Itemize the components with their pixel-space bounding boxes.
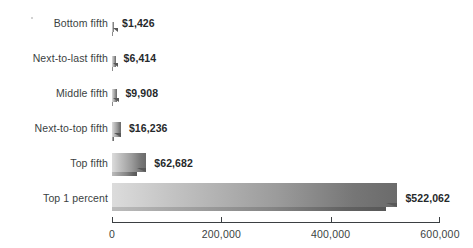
bar-right-bevel [137,168,146,176]
x-axis: 0200,000400,000600,000 [0,222,473,248]
chart-row: Top fifth$62,682 [0,146,473,181]
chart-row: Middle fifth$9,908 [0,76,473,111]
axis-tick [331,217,332,223]
chart-rows: Bottom fifth$1,426Next-to-last fifth$6,4… [0,6,473,216]
chart-row: Top 1 percent$522,062 [0,181,473,216]
x-axis-line [112,222,440,223]
chart-row: Next-to-last fifth$6,414 [0,41,473,76]
axis-tick-label: 0 [109,228,115,240]
bar-bottom-face [112,172,137,176]
chart-row: Next-to-top fifth$16,236 [0,111,473,146]
bar-right-bevel [113,98,119,106]
category-label: Top fifth [70,146,108,181]
bar-right-bevel [386,203,397,211]
axis-tick [439,217,440,223]
category-label: Middle fifth [56,76,108,111]
chart-title-remnant [110,0,360,4]
axis-tick [112,217,113,223]
value-label: $522,062 [405,181,450,216]
value-label: $9,908 [125,76,158,111]
bar-right-bevel [113,63,118,71]
category-label: Next-to-top fifth [35,111,108,146]
value-label: $62,682 [154,146,193,181]
category-label: Top 1 percent [43,181,108,216]
axis-tick [221,217,222,223]
value-label: $16,236 [129,111,168,146]
bar-chart: Bottom fifth$1,426Next-to-last fifth$6,4… [0,0,473,248]
bar [112,183,397,207]
value-label: $1,426 [122,6,155,41]
chart-row: Bottom fifth$1,426 [0,6,473,41]
axis-tick-label: 400,000 [311,228,350,240]
category-label: Next-to-last fifth [33,41,108,76]
bar-right-bevel [113,28,118,36]
category-label: Bottom fifth [54,6,108,41]
bar-bottom-face [112,207,386,211]
axis-tick-label: 200,000 [202,228,241,240]
value-label: $6,414 [124,41,157,76]
bar-right-bevel [114,133,121,141]
axis-tick-label: 600,000 [420,228,459,240]
